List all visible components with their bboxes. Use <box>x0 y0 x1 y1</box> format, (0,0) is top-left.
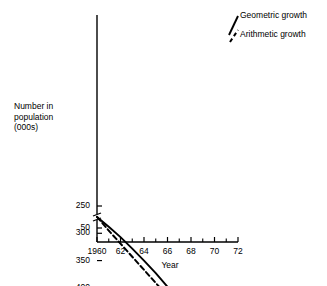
y-tick-label: 50 <box>60 222 90 232</box>
x-axis-title: Year <box>140 260 200 271</box>
y-tick-label: 400 <box>60 282 90 286</box>
x-tick-label: 72 <box>221 246 255 256</box>
y-tick-label: 250 <box>60 200 90 210</box>
legend-label-geometric-growth: Geometric growth <box>240 10 307 20</box>
y-axis-title: Number in population (000s) <box>14 101 74 133</box>
population-growth-chart: Number in population (000s) Year Geometr… <box>0 0 327 286</box>
legend-label-arithmetic-growth: Arithmetic growth <box>240 29 306 39</box>
chart-canvas <box>0 0 327 286</box>
legend-swatch-geometric <box>229 16 238 35</box>
y-tick-label: 350 <box>60 255 90 265</box>
